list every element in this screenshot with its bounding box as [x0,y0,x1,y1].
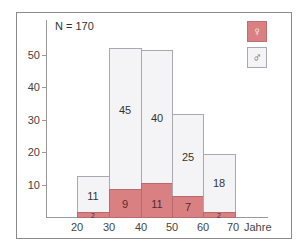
value-label-female: 11 [141,198,173,210]
legend-male: ♂ [247,47,267,68]
value-label-male: 11 [77,190,109,202]
y-tick-label: 40 [20,81,40,93]
value-label-male: 40 [141,112,173,124]
sample-size-label: N = 170 [55,20,94,32]
y-tick-label: 10 [20,179,40,191]
male-symbol-icon: ♂ [252,50,262,65]
y-tick [42,55,46,56]
legend-female: ♀ [247,21,267,42]
y-tick [42,87,46,88]
y-tick [42,185,46,186]
x-tick-label: 50 [160,221,184,233]
y-tick [42,152,46,153]
x-tick-label: 60 [191,221,215,233]
value-label-male: 25 [172,151,204,163]
x-tick-label: 70 [221,221,245,233]
female-symbol-icon: ♀ [252,24,262,39]
x-tick-label: 40 [129,221,153,233]
y-axis [46,20,47,218]
value-label-female: 2 [77,212,109,219]
y-tick [42,120,46,121]
value-label-female: 7 [172,201,204,213]
y-tick-label: 50 [20,49,40,61]
y-tick-label: 30 [20,114,40,126]
x-tick-label: 30 [97,221,121,233]
y-tick-label: 20 [20,146,40,158]
value-label-female: 2 [203,212,235,219]
value-label-female: 9 [109,198,141,210]
value-label-male: 45 [109,104,141,116]
x-axis-unit-label: Jahre [244,221,272,233]
x-tick-label: 20 [65,221,89,233]
value-label-male: 18 [203,177,235,189]
